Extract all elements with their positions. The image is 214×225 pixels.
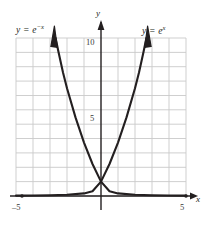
curve-label-right-exponent: x bbox=[163, 24, 166, 31]
x-axis-label: x bbox=[196, 195, 200, 204]
exponential-graph-figure: y = e−x y = ex y x 10 5 –5 5 bbox=[0, 0, 214, 225]
x-tick-label-negative-5: –5 bbox=[12, 203, 21, 212]
curve-label-y-equals-e-x: y = ex bbox=[142, 25, 166, 37]
curve-label-y-equals-e-minus-x: y = e−x bbox=[16, 24, 44, 36]
y-tick-label-10: 10 bbox=[86, 38, 95, 47]
x-tick-label-5: 5 bbox=[180, 203, 184, 212]
curve-label-left-exponent: −x bbox=[37, 23, 44, 30]
curve-label-right-prefix: y = e bbox=[142, 26, 163, 36]
y-axis-label: y bbox=[96, 9, 100, 18]
y-tick-label-5: 5 bbox=[90, 114, 94, 123]
curve-label-left-prefix: y = e bbox=[16, 25, 37, 35]
